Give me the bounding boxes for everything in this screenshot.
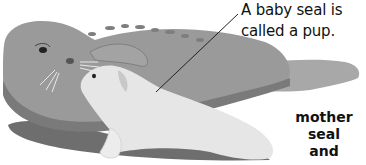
pup-eye (92, 74, 96, 78)
mother-eye (39, 47, 47, 53)
caption: A baby seal is called a pup. (241, 0, 342, 42)
mother-nose (66, 58, 74, 64)
label-line-3: pup (292, 160, 356, 165)
caption-line-1: A baby seal is (241, 0, 342, 21)
image-label: mother seal and pup (292, 109, 356, 165)
label-line-2: seal and (292, 126, 356, 160)
caption-line-2: called a pup. (241, 21, 342, 42)
label-line-1: mother (292, 109, 356, 126)
